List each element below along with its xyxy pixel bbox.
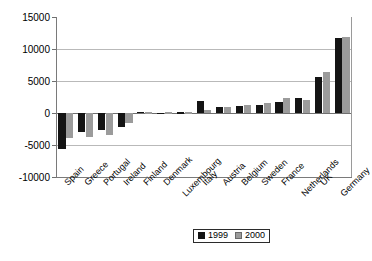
- black-square-icon: [198, 232, 205, 239]
- bar-greece-1999: [78, 113, 85, 132]
- bar-ireland-1999: [118, 113, 125, 127]
- bar-austria-2000: [224, 107, 231, 113]
- y-tick-mark: [52, 177, 56, 178]
- bar-luxembourg-1999: [177, 112, 184, 113]
- bar-spain-2000: [66, 113, 73, 138]
- bar-luxembourg-2000: [185, 112, 192, 113]
- legend-label: 1999: [208, 231, 228, 240]
- bar-denmark-1999: [157, 113, 164, 114]
- y-tick-label: -5000: [24, 141, 50, 151]
- legend-entry-2000: 2000: [235, 231, 265, 240]
- bar-greece-2000: [86, 113, 93, 137]
- bar-france-2000: [283, 98, 290, 113]
- bar-netherlands-1999: [295, 98, 302, 113]
- bar-ireland-2000: [125, 113, 132, 123]
- bar-france-1999: [275, 102, 282, 113]
- bar-germany-1999: [335, 38, 342, 113]
- bar-italy-2000: [204, 110, 211, 113]
- bar-belgium-1999: [236, 106, 243, 113]
- x-axis-line: [56, 177, 352, 178]
- legend-label: 2000: [245, 231, 265, 240]
- y-tick-label: 0: [44, 109, 50, 119]
- gray-square-icon: [235, 232, 242, 239]
- y-tick-label: 15000: [22, 13, 50, 23]
- bar-uk-1999: [315, 77, 322, 113]
- bar-netherlands-2000: [303, 100, 310, 113]
- bar-germany-2000: [342, 37, 349, 113]
- bar-sweden-1999: [256, 105, 263, 113]
- bars-layer: [56, 17, 352, 177]
- legend-entry-1999: 1999: [198, 231, 228, 240]
- y-tick-label: 5000: [28, 77, 50, 87]
- bar-italy-1999: [197, 101, 204, 113]
- y-tick-label: 10000: [22, 45, 50, 55]
- bar-finland-2000: [145, 112, 152, 113]
- chart-legend: 1999 2000: [193, 229, 270, 243]
- bar-sweden-2000: [264, 103, 271, 113]
- y-tick-label: -10000: [19, 173, 50, 183]
- bar-portugal-1999: [98, 113, 105, 130]
- bar-belgium-2000: [244, 105, 251, 113]
- bar-chart: 15000 10000 5000 0 -5000 -10000 SpainGre…: [0, 0, 372, 261]
- bar-spain-1999: [58, 113, 65, 149]
- bar-portugal-2000: [106, 113, 113, 135]
- bar-uk-2000: [323, 72, 330, 113]
- bar-finland-1999: [137, 112, 144, 113]
- bar-denmark-2000: [165, 112, 172, 113]
- bar-austria-1999: [216, 107, 223, 113]
